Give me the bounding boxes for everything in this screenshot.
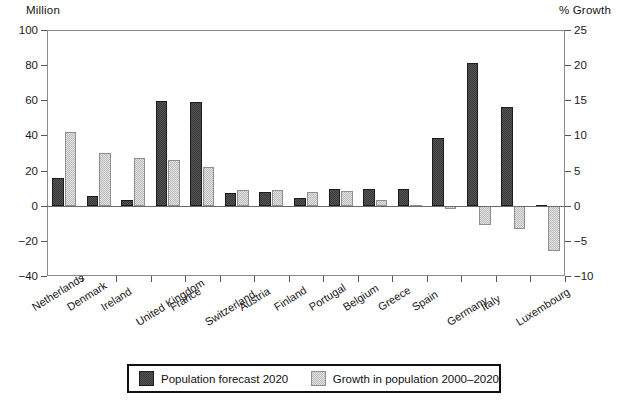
bar-growth-in-population (341, 191, 353, 206)
bar-population-forecast (363, 189, 375, 206)
x-tick-mark (427, 276, 428, 282)
x-tick-mark (151, 276, 152, 282)
bar-population-forecast (259, 192, 271, 206)
bar-growth-in-population (99, 153, 111, 206)
bar-growth-in-population (203, 167, 215, 206)
x-tick-mark (289, 276, 290, 282)
left-tick-mark (41, 100, 47, 101)
legend-entry-population-forecast: Population forecast 2020 (139, 371, 288, 386)
bar-growth-in-population (479, 206, 491, 225)
right-tick-label: 25 (574, 24, 587, 36)
bar-growth-in-population (272, 190, 284, 206)
x-tick-mark (530, 276, 531, 282)
right-tick-mark (565, 206, 571, 207)
x-category-label: Finland (272, 284, 309, 313)
x-tick-mark (392, 276, 393, 282)
x-tick-mark (565, 276, 566, 282)
right-tick-label: −5 (574, 235, 587, 247)
legend-label-growth: Growth in population 2000–2020 (333, 373, 499, 385)
right-axis-title: % Growth (559, 4, 611, 16)
right-tick-mark (565, 241, 571, 242)
x-tick-mark (323, 276, 324, 282)
left-tick-label: 0 (32, 200, 38, 212)
right-tick-label: 5 (574, 165, 580, 177)
bar-growth-in-population (307, 192, 319, 206)
bar-growth-in-population (237, 190, 249, 206)
right-tick-mark (565, 135, 571, 136)
right-tick-label: 20 (574, 59, 587, 71)
left-tick-mark (41, 206, 47, 207)
left-axis-title: Million (26, 4, 60, 16)
x-category-label: Belgium (341, 282, 381, 313)
bar-population-forecast (225, 193, 237, 206)
left-tick-mark (41, 171, 47, 172)
left-tick-label: 60 (25, 94, 38, 106)
bar-population-forecast (294, 198, 306, 206)
legend-entry-growth: Growth in population 2000–2020 (311, 371, 499, 386)
bar-growth-in-population (65, 132, 77, 206)
left-tick-mark (41, 135, 47, 136)
bar-growth-in-population (514, 206, 526, 229)
bar-population-forecast (190, 102, 202, 206)
legend-swatch-dark (139, 371, 154, 386)
bar-population-forecast (87, 196, 99, 206)
x-category-label: Spain (410, 288, 440, 313)
left-tick-label: 80 (25, 59, 38, 71)
left-tick-mark (41, 276, 47, 277)
x-tick-mark (496, 276, 497, 282)
bar-growth-in-population (134, 158, 146, 205)
right-tick-mark (565, 171, 571, 172)
right-tick-mark (565, 65, 571, 66)
bar-population-forecast (329, 189, 341, 206)
legend-label-population-forecast: Population forecast 2020 (161, 373, 288, 385)
x-category-label: Greece (375, 284, 412, 313)
right-tick-mark (565, 30, 571, 31)
x-tick-mark (220, 276, 221, 282)
bar-growth-in-population (168, 160, 180, 206)
bar-population-forecast (501, 107, 513, 205)
bar-population-forecast (52, 178, 64, 206)
right-tick-label: 0 (574, 200, 580, 212)
x-tick-mark (185, 276, 186, 282)
bar-population-forecast (467, 63, 479, 205)
right-tick-label: 10 (574, 129, 587, 141)
left-tick-mark (41, 65, 47, 66)
bar-population-forecast (432, 138, 444, 206)
left-tick-label: 40 (25, 129, 38, 141)
chart-container: Million % Growth −40−20020406080100 −10−… (0, 0, 621, 412)
x-tick-mark (461, 276, 462, 282)
x-category-label: Austria (237, 285, 272, 313)
right-tick-mark (565, 100, 571, 101)
bar-population-forecast (156, 101, 168, 206)
x-tick-mark (358, 276, 359, 282)
legend-swatch-light (311, 371, 326, 386)
left-tick-mark (41, 241, 47, 242)
left-tick-label: 100 (19, 24, 38, 36)
x-tick-mark (254, 276, 255, 282)
left-tick-label: −40 (18, 270, 38, 282)
right-tick-label: −10 (574, 270, 594, 282)
left-tick-label: 20 (25, 165, 38, 177)
bar-growth-in-population (548, 206, 560, 252)
left-tick-mark (41, 30, 47, 31)
right-tick-label: 15 (574, 94, 587, 106)
bar-population-forecast (398, 189, 410, 206)
x-category-label: Portugal (306, 281, 347, 313)
zero-baseline (47, 206, 565, 207)
plot-area (47, 30, 565, 276)
x-tick-mark (116, 276, 117, 282)
chart-legend: Population forecast 2020 Growth in popul… (127, 364, 501, 393)
left-tick-label: −20 (18, 235, 38, 247)
x-category-label: Luxembourg (513, 285, 571, 328)
